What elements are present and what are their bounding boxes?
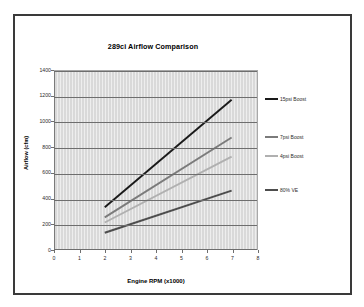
y-tick-mark	[51, 199, 54, 200]
x-tick-mark	[156, 250, 157, 253]
gridline	[54, 174, 257, 175]
y-tick-label: 200	[21, 222, 51, 227]
legend-item-1[interactable]: 7psi Boost	[265, 134, 303, 140]
x-tick-mark	[207, 250, 208, 253]
y-tick-label: 400	[21, 196, 51, 201]
legend-item-0[interactable]: 15psi Boost	[265, 96, 306, 102]
legend-item-2[interactable]: 4psi Boost	[265, 153, 303, 159]
x-tick-label: 2	[98, 255, 112, 261]
gridline	[54, 148, 257, 149]
chart-title: 289ci Airflow Comparison	[15, 42, 291, 51]
legend-item-3[interactable]: 80% VE	[265, 187, 298, 193]
gridline	[54, 200, 257, 201]
chart-legend: 15psi Boost7psi Boost4psi Boost80% VE	[265, 70, 351, 250]
x-tick-mark	[80, 250, 81, 253]
x-tick-mark	[54, 250, 55, 253]
x-tick-label: 3	[124, 255, 138, 261]
x-tick-mark	[233, 250, 234, 253]
gridline	[54, 225, 257, 226]
y-tick-mark	[51, 70, 54, 71]
x-tick-label: 1	[73, 255, 87, 261]
x-tick-label: 5	[175, 255, 189, 261]
gridline	[54, 97, 257, 98]
y-tick-mark	[51, 147, 54, 148]
gridline	[54, 122, 257, 123]
chart-frame: 289ci Airflow Comparison Airflow (cfm) 0…	[13, 14, 352, 295]
y-tick-mark	[51, 121, 54, 122]
plot-area	[54, 70, 258, 250]
series-line-0	[105, 100, 232, 207]
y-tick-label: 800	[21, 145, 51, 150]
x-axis-title: Engine RPM (x1000)	[54, 278, 258, 284]
legend-swatch-icon	[265, 136, 278, 138]
legend-label: 80% VE	[280, 187, 298, 193]
legend-label: 4psi Boost	[280, 153, 303, 159]
y-tick-label: 600	[21, 170, 51, 175]
x-tick-label: 6	[200, 255, 214, 261]
y-tick-label: 1400	[21, 68, 51, 73]
y-tick-mark	[51, 224, 54, 225]
x-tick-mark	[105, 250, 106, 253]
gridline	[54, 71, 257, 72]
legend-label: 15psi Boost	[280, 96, 306, 102]
series-lines	[54, 71, 257, 250]
x-tick-mark	[131, 250, 132, 253]
x-tick-label: 0	[47, 255, 61, 261]
x-tick-label: 4	[149, 255, 163, 261]
legend-swatch-icon	[265, 155, 278, 157]
x-tick-mark	[182, 250, 183, 253]
y-tick-label: 1000	[21, 119, 51, 124]
y-tick-mark	[51, 96, 54, 97]
y-tick-label: 0	[21, 248, 51, 253]
legend-label: 7psi Boost	[280, 134, 303, 140]
x-tick-label: 8	[251, 255, 265, 261]
x-tick-label: 7	[226, 255, 240, 261]
legend-swatch-icon	[265, 189, 278, 191]
y-tick-mark	[51, 173, 54, 174]
legend-swatch-icon	[265, 98, 278, 100]
y-axis-title: Airflow (cfm)	[23, 118, 29, 188]
y-tick-label: 1200	[21, 93, 51, 98]
x-tick-mark	[258, 250, 259, 253]
series-line-1	[105, 137, 232, 217]
